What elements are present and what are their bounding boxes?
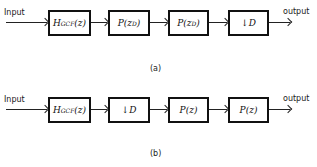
block-text: D bbox=[249, 18, 256, 28]
caption-b: (b) bbox=[150, 149, 161, 159]
connector-arrow bbox=[91, 22, 107, 23]
block-text: (z) bbox=[74, 105, 86, 115]
connector-arrow bbox=[209, 22, 227, 23]
connector-arrow bbox=[91, 109, 107, 110]
block-text: ) bbox=[137, 18, 141, 28]
block-text: D bbox=[129, 105, 136, 115]
block-text: P(z) bbox=[240, 105, 258, 115]
block-text: ) bbox=[196, 18, 200, 28]
block-hgcf: HGCF(z) bbox=[48, 10, 91, 36]
input-label: Input bbox=[4, 8, 25, 18]
block-p-z: P(z) bbox=[168, 97, 209, 123]
block-downsample: ↓ D bbox=[228, 10, 269, 36]
block-text: P(z) bbox=[180, 105, 198, 115]
diagram-a: Input HGCF(z) P(zD) P(zD) ↓ D output (a) bbox=[0, 0, 317, 80]
connector-arrow bbox=[209, 109, 227, 110]
input-arrow bbox=[6, 22, 47, 23]
block-p-z-2: P(z) bbox=[228, 97, 269, 123]
block-text: H bbox=[53, 18, 61, 28]
down-arrow-icon: ↓ bbox=[241, 18, 249, 28]
output-label: output bbox=[283, 94, 309, 104]
block-subscript: GCF bbox=[61, 20, 75, 27]
block-text: H bbox=[53, 105, 61, 115]
block-downsample: ↓ D bbox=[108, 97, 150, 123]
diagram-b: Input HGCF(z) ↓ D P(z) P(z) output (b) bbox=[0, 87, 317, 167]
connector-arrow bbox=[150, 109, 167, 110]
block-p-zd: P(zD) bbox=[108, 10, 150, 36]
caption-a: (a) bbox=[150, 64, 161, 74]
block-p-zd-2: P(zD) bbox=[168, 10, 209, 36]
block-text: P(z bbox=[118, 18, 132, 28]
connector-arrow bbox=[150, 22, 167, 23]
block-text: P(z bbox=[177, 18, 191, 28]
input-label: Input bbox=[4, 95, 25, 105]
input-arrow bbox=[6, 109, 47, 110]
output-arrow bbox=[269, 109, 290, 110]
output-label: output bbox=[283, 7, 309, 17]
block-text: (z) bbox=[74, 18, 86, 28]
block-subscript: GCF bbox=[61, 107, 75, 114]
output-arrow bbox=[269, 22, 290, 23]
block-hgcf: HGCF(z) bbox=[48, 97, 91, 123]
